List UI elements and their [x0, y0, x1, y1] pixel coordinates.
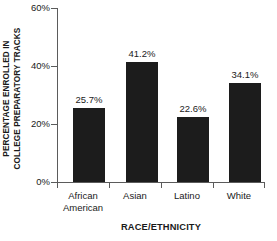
- y-axis-title-line-1: PERCENTAGE ENROLLED IN: [2, 9, 13, 189]
- x-tick-mark-2: [161, 183, 162, 188]
- bar-african-american[interactable]: [73, 108, 105, 182]
- y-tick-mark-60: [51, 8, 57, 9]
- category-label-line-1: Asian: [123, 190, 147, 201]
- x-tick-mark-0: [57, 183, 58, 188]
- y-tick-label-60: 60%: [24, 3, 50, 13]
- y-tick-label-20: 20%: [24, 119, 50, 129]
- bar-latino[interactable]: [177, 117, 209, 182]
- bar-asian[interactable]: [126, 62, 158, 182]
- bar-value-white: 34.1%: [215, 69, 275, 80]
- category-label-line-2: American: [57, 202, 109, 214]
- category-label-line-1: African: [68, 190, 98, 201]
- category-label-line-1: Latino: [174, 190, 200, 201]
- y-axis-title-line-2: COLLEGE PREPARATORY TRACKS: [12, 9, 23, 189]
- y-tick-label-0: 0%: [24, 177, 50, 187]
- category-label-white: White: [213, 190, 265, 202]
- x-tick-mark-1: [109, 183, 110, 188]
- bar-value-latino: 22.6%: [163, 103, 223, 114]
- bar-white[interactable]: [229, 83, 261, 182]
- x-tick-mark-3: [213, 183, 214, 188]
- category-label-latino: Latino: [161, 190, 213, 202]
- bar-value-asian: 41.2%: [112, 48, 172, 59]
- category-label-african-american: African American: [57, 190, 109, 213]
- y-tick-mark-40: [51, 66, 57, 67]
- category-label-line-1: White: [227, 190, 251, 201]
- x-tick-mark-4: [264, 183, 265, 188]
- y-tick-label-40: 40%: [24, 61, 50, 71]
- y-axis-title: PERCENTAGE ENROLLED IN COLLEGE PREPARATO…: [2, 9, 23, 189]
- y-tick-label-group: 60% 40% 20% 0%: [22, 0, 50, 241]
- x-axis-title: RACE/ETHNICITY: [57, 222, 265, 232]
- y-tick-mark-20: [51, 124, 57, 125]
- bar-value-african-american: 25.7%: [59, 94, 119, 105]
- bar-chart: PERCENTAGE ENROLLED IN COLLEGE PREPARATO…: [0, 0, 277, 241]
- category-label-asian: Asian: [109, 190, 161, 202]
